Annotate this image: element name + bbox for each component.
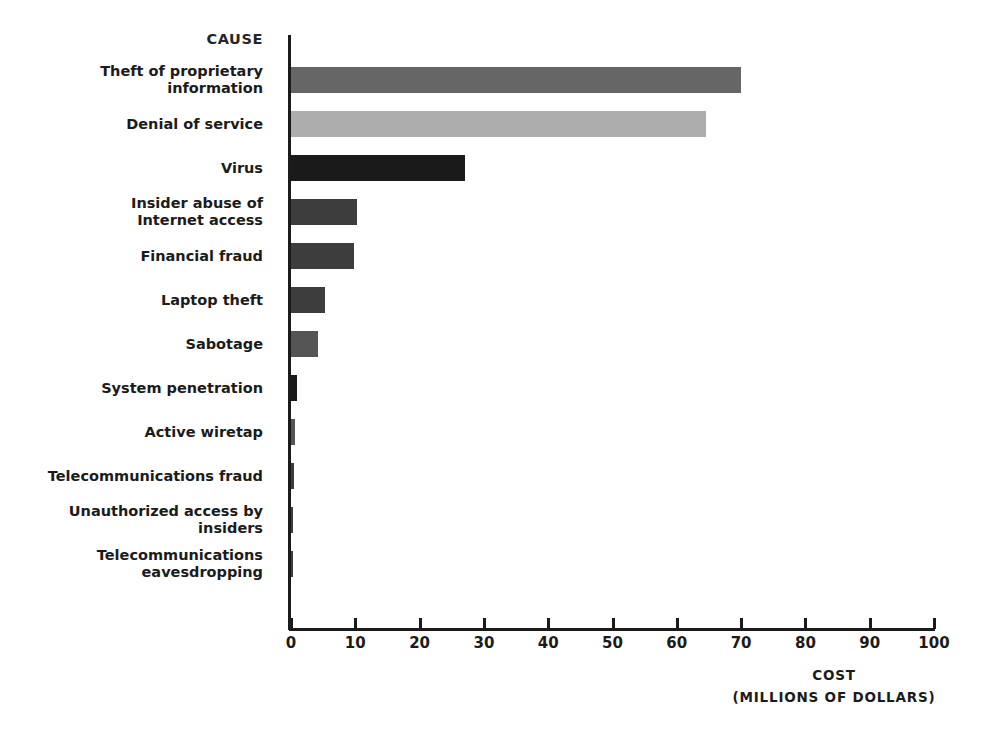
bar-row-label: Laptop theft bbox=[0, 278, 275, 322]
bar-track bbox=[291, 542, 951, 586]
bar-row: Denial of service bbox=[0, 102, 992, 146]
x-tick-label: 30 bbox=[454, 634, 514, 652]
bar-row-label-line: Financial fraud bbox=[140, 248, 263, 265]
bar-row: Theft of proprietaryinformation bbox=[0, 58, 992, 102]
bar-row-label: Virus bbox=[0, 146, 275, 190]
bar[interactable] bbox=[291, 199, 357, 225]
bar[interactable] bbox=[291, 243, 354, 269]
bar-row: Financial fraud bbox=[0, 234, 992, 278]
bar[interactable] bbox=[291, 507, 293, 533]
bar-row: Sabotage bbox=[0, 322, 992, 366]
bar-row-label: Theft of proprietaryinformation bbox=[0, 58, 275, 102]
bar-track bbox=[291, 410, 951, 454]
bar-row-label-line: Denial of service bbox=[126, 116, 263, 133]
bar-row-label-line: insiders bbox=[198, 520, 263, 537]
bar-row-label: Insider abuse ofInternet access bbox=[0, 190, 275, 234]
bar-track bbox=[291, 146, 951, 190]
bar-row: Active wiretap bbox=[0, 410, 992, 454]
bar-row-label: Denial of service bbox=[0, 102, 275, 146]
category-axis-header: CAUSE bbox=[0, 31, 275, 47]
bar[interactable] bbox=[291, 419, 295, 445]
bar-row-label-line: Unauthorized access by bbox=[69, 503, 263, 520]
x-axis-title: COST (MILLIONS OF DOLLARS) bbox=[700, 664, 968, 708]
bar-row-label-line: System penetration bbox=[101, 380, 263, 397]
bar-row: System penetration bbox=[0, 366, 992, 410]
bar[interactable] bbox=[291, 375, 297, 401]
bar-row: Laptop theft bbox=[0, 278, 992, 322]
bar-row-label: Financial fraud bbox=[0, 234, 275, 278]
bar-track bbox=[291, 278, 951, 322]
bar-row-label-line: eavesdropping bbox=[142, 564, 263, 581]
x-tick-label: 90 bbox=[840, 634, 900, 652]
bar-row-label-line: Laptop theft bbox=[161, 292, 263, 309]
x-tick-label: 70 bbox=[711, 634, 771, 652]
bar[interactable] bbox=[291, 111, 706, 137]
bar-row-label: Telecommunicationseavesdropping bbox=[0, 542, 275, 586]
bar-row-label: Sabotage bbox=[0, 322, 275, 366]
x-tick-label: 20 bbox=[390, 634, 450, 652]
bar-row-label-line: Active wiretap bbox=[145, 424, 264, 441]
bar-row: Virus bbox=[0, 146, 992, 190]
bar-row-label-line: Sabotage bbox=[186, 336, 264, 353]
bar-row-label-line: Theft of proprietary bbox=[100, 63, 263, 80]
bar-row-label-line: Insider abuse of bbox=[131, 195, 263, 212]
bar[interactable] bbox=[291, 331, 318, 357]
bar-row: Telecommunicationseavesdropping bbox=[0, 542, 992, 586]
bar-row: Telecommunications fraud bbox=[0, 454, 992, 498]
bar-row-label: System penetration bbox=[0, 366, 275, 410]
x-tick-label: 100 bbox=[904, 634, 964, 652]
bar-track bbox=[291, 190, 951, 234]
bar-row-label-line: Internet access bbox=[137, 212, 263, 229]
bar-row-label-line: Virus bbox=[221, 160, 263, 177]
x-axis-title-line2: (MILLIONS OF DOLLARS) bbox=[700, 686, 968, 708]
bar-rows: Theft of proprietaryinformationDenial of… bbox=[0, 58, 992, 586]
bar-row-label-line: Telecommunications bbox=[97, 547, 263, 564]
bar-track bbox=[291, 366, 951, 410]
bar-row: Unauthorized access byinsiders bbox=[0, 498, 992, 542]
x-tick-label: 10 bbox=[325, 634, 385, 652]
bar-row-label: Telecommunications fraud bbox=[0, 454, 275, 498]
x-tick-label: 50 bbox=[583, 634, 643, 652]
x-axis-title-line1: COST bbox=[700, 664, 968, 686]
bar[interactable] bbox=[291, 287, 325, 313]
bar-track bbox=[291, 454, 951, 498]
x-axis-line bbox=[289, 628, 935, 631]
bar[interactable] bbox=[291, 155, 465, 181]
bar-track bbox=[291, 58, 951, 102]
bar-track bbox=[291, 102, 951, 146]
bar-track bbox=[291, 322, 951, 366]
bar-track bbox=[291, 498, 951, 542]
bar-row-label-line: information bbox=[167, 80, 263, 97]
bar-row-label-line: Telecommunications fraud bbox=[48, 468, 263, 485]
bar-chart: CAUSE Theft of proprietaryinformationDen… bbox=[0, 0, 992, 733]
bar-track bbox=[291, 234, 951, 278]
bar[interactable] bbox=[291, 463, 294, 489]
x-tick-label: 60 bbox=[647, 634, 707, 652]
x-tick-label: 80 bbox=[775, 634, 835, 652]
bar-row-label: Active wiretap bbox=[0, 410, 275, 454]
bar[interactable] bbox=[291, 67, 741, 93]
x-tick-label: 0 bbox=[261, 634, 321, 652]
bar-row: Insider abuse ofInternet access bbox=[0, 190, 992, 234]
x-tick-label: 40 bbox=[518, 634, 578, 652]
bar-row-label: Unauthorized access byinsiders bbox=[0, 498, 275, 542]
bar[interactable] bbox=[291, 551, 293, 577]
